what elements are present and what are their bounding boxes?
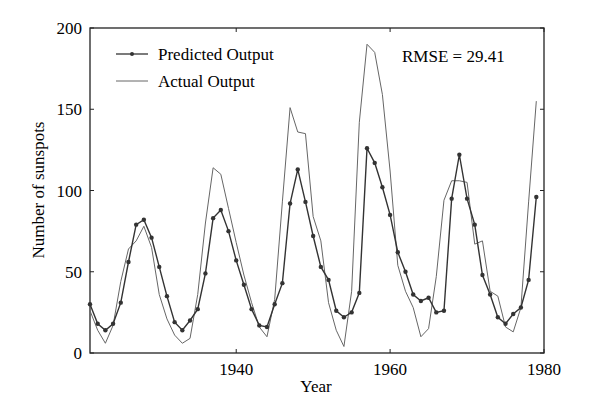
predicted-marker	[234, 258, 238, 262]
predicted-marker	[280, 281, 284, 285]
predicted-marker	[172, 320, 176, 324]
predicted-marker	[334, 309, 338, 313]
predicted-marker	[411, 292, 415, 296]
predicted-marker	[211, 216, 215, 220]
y-tick-label: 0	[74, 344, 83, 363]
predicted-marker	[196, 307, 200, 311]
predicted-marker	[419, 299, 423, 303]
predicted-marker	[88, 302, 92, 306]
predicted-marker	[449, 196, 453, 200]
predicted-marker	[473, 222, 477, 226]
predicted-marker	[219, 208, 223, 212]
plot-area: 050100150200194019601980	[57, 19, 562, 379]
predicted-marker	[426, 296, 430, 300]
predicted-marker	[319, 265, 323, 269]
predicted-marker	[242, 283, 246, 287]
x-axis-label: Year	[300, 377, 332, 396]
predicted-marker	[257, 323, 261, 327]
predicted-marker	[103, 328, 107, 332]
predicted-marker	[357, 291, 361, 295]
predicted-output-line	[90, 148, 536, 330]
predicted-marker	[434, 310, 438, 314]
predicted-marker	[519, 305, 523, 309]
legend-predicted-label: Predicted Output	[158, 45, 274, 64]
predicted-marker	[465, 196, 469, 200]
predicted-marker	[165, 294, 169, 298]
predicted-marker	[126, 260, 130, 264]
y-axis-label: Number of sunspots	[29, 122, 48, 259]
predicted-marker	[373, 161, 377, 165]
predicted-marker	[134, 222, 138, 226]
predicted-marker	[388, 213, 392, 217]
predicted-marker	[272, 302, 276, 306]
predicted-marker	[403, 270, 407, 274]
x-tick-label: 1980	[527, 360, 561, 379]
legend-predicted-marker	[130, 52, 134, 56]
predicted-marker	[526, 278, 530, 282]
predicted-marker	[503, 322, 507, 326]
rmse-annotation: RMSE = 29.41	[402, 47, 505, 66]
predicted-marker	[188, 318, 192, 322]
x-tick-label: 1940	[219, 360, 253, 379]
predicted-marker	[149, 235, 153, 239]
predicted-marker	[534, 195, 538, 199]
sunspot-chart: 050100150200194019601980 Number of sunsp…	[0, 0, 589, 412]
y-tick-label: 200	[57, 19, 83, 38]
predicted-marker	[511, 312, 515, 316]
predicted-marker	[226, 229, 230, 233]
predicted-marker	[457, 153, 461, 157]
predicted-marker	[180, 328, 184, 332]
legend-actual-label: Actual Output	[158, 72, 255, 91]
predicted-marker	[288, 201, 292, 205]
predicted-marker	[249, 307, 253, 311]
y-tick-label: 50	[65, 263, 82, 282]
predicted-marker	[349, 310, 353, 314]
predicted-marker	[365, 146, 369, 150]
predicted-marker	[95, 322, 99, 326]
predicted-marker	[311, 234, 315, 238]
predicted-marker	[480, 273, 484, 277]
predicted-marker	[442, 309, 446, 313]
predicted-marker	[203, 271, 207, 275]
predicted-marker	[142, 218, 146, 222]
predicted-marker	[119, 300, 123, 304]
predicted-marker	[380, 185, 384, 189]
y-tick-label: 150	[57, 100, 83, 119]
predicted-marker	[265, 325, 269, 329]
predicted-marker	[496, 315, 500, 319]
predicted-marker	[157, 265, 161, 269]
predicted-marker	[111, 322, 115, 326]
predicted-marker	[396, 250, 400, 254]
predicted-marker	[342, 315, 346, 319]
predicted-marker	[488, 292, 492, 296]
predicted-marker	[303, 200, 307, 204]
x-tick-label: 1960	[373, 360, 407, 379]
predicted-marker	[296, 167, 300, 171]
predicted-marker	[326, 278, 330, 282]
actual-output-line	[90, 44, 536, 346]
y-tick-label: 100	[57, 182, 83, 201]
